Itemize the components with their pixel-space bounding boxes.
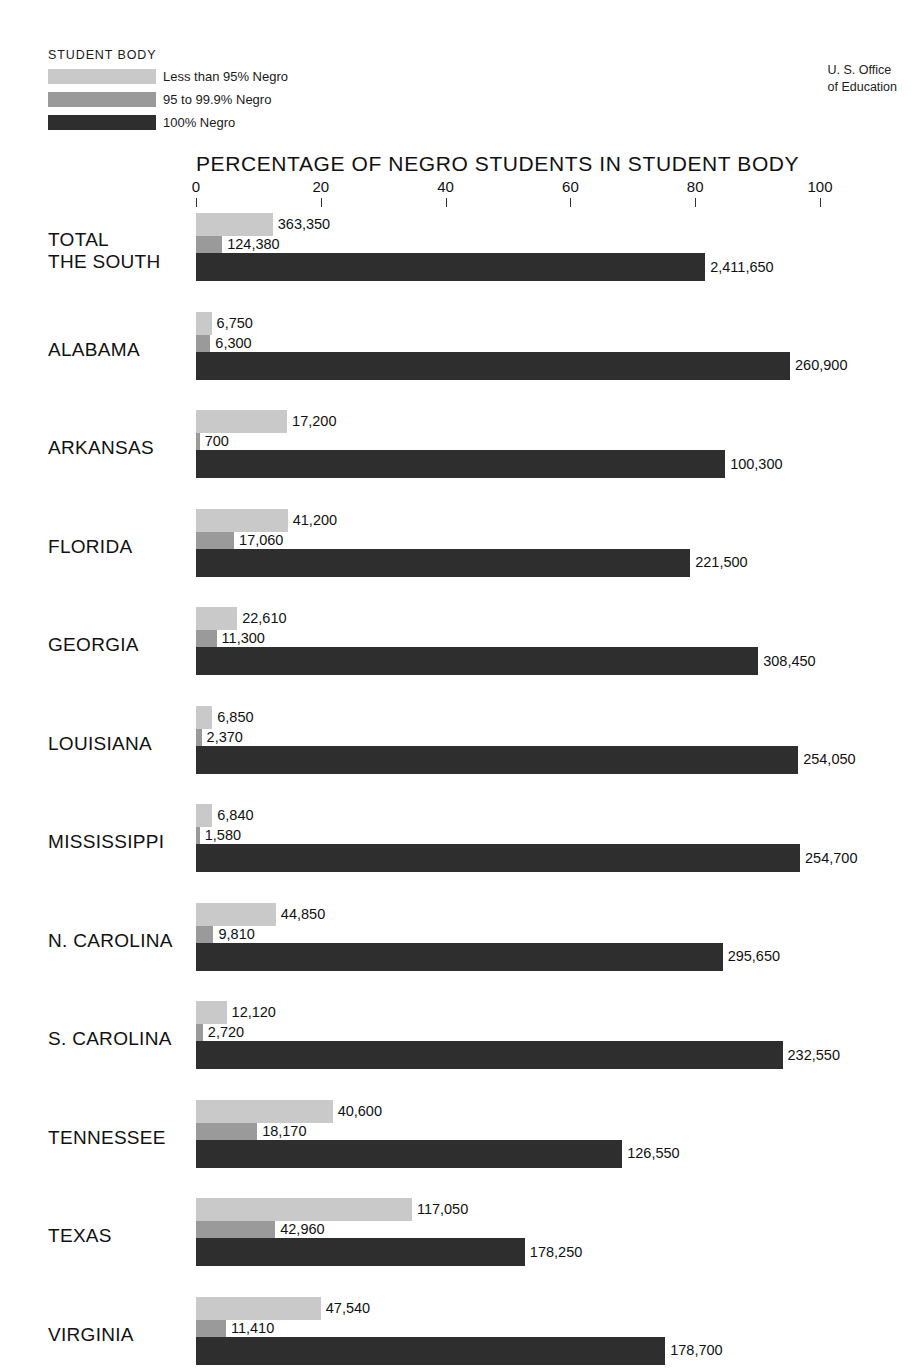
bar-segment <box>196 509 288 532</box>
bar-segment <box>196 729 202 746</box>
chart-group: TOTAL THE SOUTH363,350124,3802,411,650 <box>0 208 919 294</box>
bar-segment <box>196 1100 333 1123</box>
bar-value-label: 41,200 <box>293 513 337 528</box>
bar-row: 40,600 <box>0 1100 382 1123</box>
chart-group: MISSISSIPPI6,8401,580254,700 <box>0 799 919 885</box>
bar-value-label: 6,840 <box>217 808 253 823</box>
bar-segment <box>196 746 798 774</box>
bar-value-label: 1,580 <box>205 828 241 843</box>
bar-row: 260,900 <box>0 352 847 380</box>
bar-row: 221,500 <box>0 549 748 577</box>
bar-row: 295,650 <box>0 943 780 971</box>
bar-segment <box>196 844 800 872</box>
bar-value-label: 17,060 <box>239 533 283 548</box>
bar-segment <box>196 450 725 478</box>
bar-row: 100,300 <box>0 450 783 478</box>
bar-row: 22,610 <box>0 607 287 630</box>
bar-value-label: 308,450 <box>763 654 815 669</box>
bar-value-label: 178,250 <box>530 1245 582 1260</box>
bar-value-label: 40,600 <box>338 1104 382 1119</box>
bar-segment <box>196 213 273 236</box>
bar-row: 700 <box>0 433 229 450</box>
chart-group: LOUISIANA6,8502,370254,050 <box>0 701 919 787</box>
chart-group: TENNESSEE40,60018,170126,550 <box>0 1095 919 1181</box>
chart-group: ALABAMA6,7506,300260,900 <box>0 307 919 393</box>
bar-segment <box>196 1320 226 1337</box>
chart-group: VIRGINIA47,54011,410178,700 <box>0 1292 919 1369</box>
bar-row: 363,350 <box>0 213 330 236</box>
bar-row: 11,300 <box>0 630 265 647</box>
bar-segment <box>196 926 213 943</box>
bar-row: 178,250 <box>0 1238 582 1266</box>
bar-segment <box>196 630 217 647</box>
bar-row: 17,060 <box>0 532 283 549</box>
bar-segment <box>196 335 210 352</box>
bar-segment <box>196 804 212 827</box>
bar-value-label: 124,380 <box>227 237 279 252</box>
bar-value-label: 254,050 <box>803 752 855 767</box>
bar-segment <box>196 943 723 971</box>
bar-segment <box>196 549 690 577</box>
bar-value-label: 100,300 <box>730 457 782 472</box>
bar-row: 254,700 <box>0 844 857 872</box>
bar-value-label: 221,500 <box>695 555 747 570</box>
bar-row: 12,120 <box>0 1001 276 1024</box>
bar-row: 2,411,650 <box>0 253 774 281</box>
bar-segment <box>196 312 212 335</box>
chart-group: TEXAS117,05042,960178,250 <box>0 1193 919 1279</box>
bar-value-label: 2,370 <box>207 730 243 745</box>
bar-segment <box>196 1041 783 1069</box>
bar-row: 178,700 <box>0 1337 723 1365</box>
bar-row: 18,170 <box>0 1123 307 1140</box>
bar-segment <box>196 532 234 549</box>
bar-value-label: 6,750 <box>217 316 253 331</box>
bar-row: 9,810 <box>0 926 255 943</box>
bar-value-label: 700 <box>205 434 229 449</box>
bar-segment <box>196 1140 622 1168</box>
bar-row: 308,450 <box>0 647 816 675</box>
bar-value-label: 42,960 <box>280 1222 324 1237</box>
bar-value-label: 232,550 <box>788 1048 840 1063</box>
bar-row: 6,750 <box>0 312 253 335</box>
bar-segment <box>196 253 705 281</box>
bar-row: 6,840 <box>0 804 254 827</box>
bar-value-label: 254,700 <box>805 851 857 866</box>
bar-segment <box>196 410 287 433</box>
bar-value-label: 11,300 <box>222 631 265 646</box>
bar-value-label: 126,550 <box>627 1146 679 1161</box>
bar-value-label: 12,120 <box>232 1005 276 1020</box>
bar-row: 117,050 <box>0 1198 468 1221</box>
bar-row: 2,370 <box>0 729 243 746</box>
bar-row: 11,410 <box>0 1320 274 1337</box>
chart-group: FLORIDA41,20017,060221,500 <box>0 504 919 590</box>
bar-value-label: 22,610 <box>242 611 286 626</box>
bar-value-label: 117,050 <box>417 1202 468 1217</box>
bar-row: 47,540 <box>0 1297 370 1320</box>
bar-value-label: 2,411,650 <box>710 260 773 275</box>
bar-row: 44,850 <box>0 903 325 926</box>
bar-segment <box>196 607 237 630</box>
bar-value-label: 260,900 <box>795 358 847 373</box>
bar-segment <box>196 1297 321 1320</box>
bar-segment <box>196 1024 203 1041</box>
bar-row: 6,850 <box>0 706 254 729</box>
bar-segment <box>196 1337 665 1365</box>
bar-row: 6,300 <box>0 335 252 352</box>
bar-row: 1,580 <box>0 827 241 844</box>
bar-row: 254,050 <box>0 746 856 774</box>
bar-value-label: 44,850 <box>281 907 325 922</box>
bar-row: 17,200 <box>0 410 336 433</box>
bar-value-label: 9,810 <box>218 927 254 942</box>
bar-value-label: 17,200 <box>292 414 336 429</box>
bar-value-label: 6,850 <box>217 710 253 725</box>
bar-segment <box>196 1221 275 1238</box>
bar-row: 42,960 <box>0 1221 325 1238</box>
bar-segment <box>196 1198 412 1221</box>
chart-group: ARKANSAS17,200700100,300 <box>0 405 919 491</box>
bar-segment <box>196 1123 257 1140</box>
bar-value-label: 178,700 <box>670 1343 722 1358</box>
bar-row: 124,380 <box>0 236 280 253</box>
bar-segment <box>196 1238 525 1266</box>
bar-segment <box>196 352 790 380</box>
